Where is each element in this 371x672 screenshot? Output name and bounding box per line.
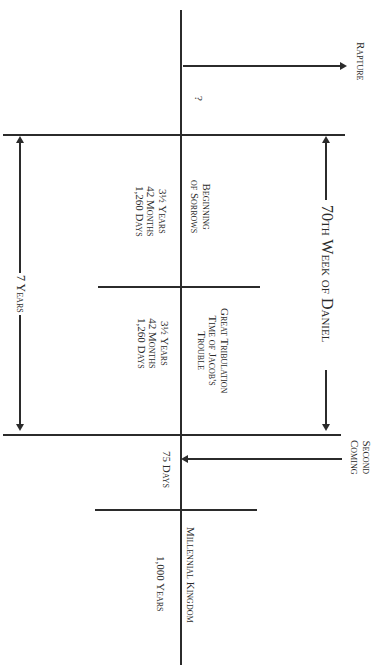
rapture-timing-label: ?: [192, 96, 204, 101]
seventieth-week-arrowhead-down-icon: [322, 424, 330, 431]
second-coming-arrowhead-icon: [181, 455, 188, 463]
boundary-millennium-start: [95, 509, 257, 511]
duration-years: 3½ Years: [156, 186, 168, 237]
duration-months: 42 Months: [145, 186, 157, 237]
duration-months: 42 Months: [147, 318, 159, 369]
seven-years-arrow-top: [19, 140, 21, 273]
duration-days: 1,260 Days: [135, 318, 147, 369]
duration-years: 3½ Years: [158, 318, 170, 369]
seven-years-label: 7 Years: [14, 275, 27, 313]
duration-days: 1,260 Days: [133, 186, 145, 237]
period-name-line1: Great Tribulation: [218, 308, 230, 393]
second-coming-line2: Coming: [349, 440, 361, 474]
period-beginning-of-sorrows-duration: 3½ Years 42 Months 1,260 Days: [133, 186, 168, 237]
period-name-line2: of Sorrows: [189, 180, 201, 233]
period-name-line2: Time of Jacob's: [207, 308, 219, 393]
seven-years-arrow-bottom: [19, 315, 21, 429]
second-coming-arrow-shaft: [186, 458, 342, 460]
seven-years-arrowhead-up-icon: [16, 136, 24, 143]
rapture-arrowhead-icon: [340, 62, 347, 70]
seventieth-week-arrow-bottom: [325, 370, 327, 429]
period-75-days: 75 Days: [160, 451, 172, 488]
seventieth-week-arrowhead-up-icon: [322, 136, 330, 143]
second-coming-line1: Second: [360, 440, 371, 474]
period-millennial-kingdom: Millennial Kingdom: [184, 527, 196, 623]
second-coming-label: Second Coming: [349, 440, 371, 474]
rapture-label: Rapture: [354, 42, 366, 80]
period-beginning-of-sorrows: Beginning of Sorrows: [189, 180, 212, 233]
seventieth-week-label: 70th Week of Daniel: [318, 205, 335, 342]
period-name-line3: Trouble: [195, 308, 207, 393]
rapture-arrow-shaft: [183, 65, 343, 67]
boundary-start-70th-week: [3, 134, 345, 136]
period-great-tribulation-duration: 3½ Years 42 Months 1,260 Days: [135, 318, 170, 369]
seven-years-arrowhead-down-icon: [16, 424, 24, 431]
period-name-line1: Beginning: [200, 180, 212, 233]
boundary-midpoint: [98, 286, 260, 288]
period-great-tribulation: Great Tribulation Time of Jacob's Troubl…: [195, 308, 230, 393]
boundary-second-coming: [3, 434, 341, 436]
period-millennial-kingdom-duration: 1,000 Years: [154, 556, 166, 612]
timeline-axis: [180, 10, 182, 665]
seventieth-week-arrow-top: [325, 140, 327, 200]
